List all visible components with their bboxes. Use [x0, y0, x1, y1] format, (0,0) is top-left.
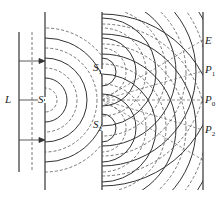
label-slit: S	[38, 94, 44, 105]
label-slit2: S2	[93, 119, 102, 133]
diagram-graphics	[0, 0, 218, 200]
label-p0: P0	[205, 94, 215, 108]
label-p1: P1	[205, 64, 215, 78]
double-slit-diagram: L S S1 S2 E P1 P0 P2	[0, 0, 218, 200]
label-screen: E	[205, 35, 212, 46]
label-source: L	[5, 94, 11, 105]
label-p2: P2	[205, 124, 215, 138]
label-slit1: S1	[93, 62, 102, 76]
